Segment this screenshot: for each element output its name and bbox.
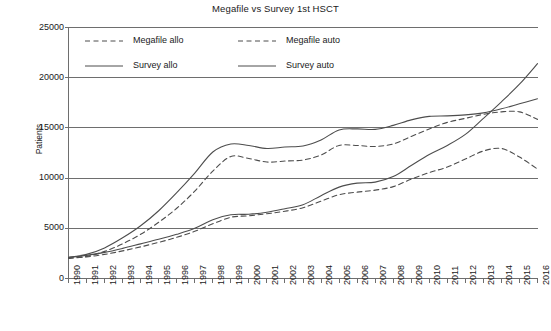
x-tick-label: 1993 <box>127 264 136 284</box>
x-tick-label: 1991 <box>91 264 100 284</box>
chart-container: Megafile vs Survey 1st HSCT Patients 050… <box>0 0 551 331</box>
x-tick-label: 2013 <box>487 264 496 284</box>
x-tick-label: 1990 <box>73 264 82 284</box>
legend-swatch-line <box>238 61 278 71</box>
y-tick-label: 25000 <box>18 23 64 32</box>
y-tick-label: 10000 <box>18 173 64 182</box>
x-tick-label: 2001 <box>271 264 280 284</box>
y-tick-label: 20000 <box>18 73 64 82</box>
y-tick-label: 15000 <box>18 123 64 132</box>
x-tick-label: 2016 <box>542 264 551 284</box>
x-tick-label: 2009 <box>415 264 424 284</box>
x-tick-label: 2012 <box>469 264 478 284</box>
x-tick-label: 1996 <box>181 264 190 284</box>
x-tick-label: 2005 <box>343 264 352 284</box>
x-tick-label: 2007 <box>379 264 388 284</box>
x-tick-label: 1995 <box>163 264 172 284</box>
x-tick-label: 1994 <box>145 264 154 284</box>
x-tick-label: 2010 <box>433 264 442 284</box>
x-tick-label: 1998 <box>217 264 226 284</box>
y-axis-tick-labels: 0500010000150002000025000 <box>10 0 64 331</box>
x-tick-label: 2015 <box>523 264 532 284</box>
y-tick-label: 0 <box>18 274 64 283</box>
series-line <box>69 148 538 258</box>
x-tick-label: 2008 <box>397 264 406 284</box>
legend-swatch-line <box>238 36 278 46</box>
legend-label: Megafile allo <box>133 35 184 45</box>
legend-label: Megafile auto <box>286 35 340 45</box>
y-tick-label: 5000 <box>18 223 64 232</box>
chart-title: Megafile vs Survey 1st HSCT <box>0 3 551 14</box>
x-tick-label: 1999 <box>235 264 244 284</box>
x-tick-label: 2000 <box>253 264 262 284</box>
x-tick-label: 2004 <box>325 264 334 284</box>
x-tick-label: 1997 <box>199 264 208 284</box>
legend-swatch-line <box>85 61 125 71</box>
x-tick-label: 2006 <box>361 264 370 284</box>
x-tick-label: 2002 <box>289 264 298 284</box>
x-tick-label: 1992 <box>109 264 118 284</box>
x-tick-label: 2003 <box>307 264 316 284</box>
legend-label: Survey allo <box>133 60 178 70</box>
legend-swatch-line <box>85 36 125 46</box>
legend-label: Survey auto <box>286 60 334 70</box>
x-tick-label: 2011 <box>451 265 460 284</box>
x-tick-label: 2014 <box>505 264 514 284</box>
